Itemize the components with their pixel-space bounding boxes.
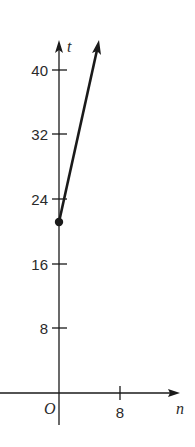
- t-axis-label: t: [67, 38, 72, 55]
- y-tick-label-32: 32: [31, 126, 48, 143]
- chart-canvas: 40 32 24 16 8 8 O t n: [0, 0, 195, 447]
- data-line: [59, 50, 97, 222]
- y-tick-label-40: 40: [31, 62, 48, 79]
- y-tick-label-8: 8: [40, 320, 48, 337]
- y-tick-label-24: 24: [31, 191, 48, 208]
- origin-label: O: [44, 400, 56, 417]
- n-axis-label: n: [176, 400, 184, 417]
- x-tick-label-8: 8: [116, 404, 124, 421]
- start-point-marker: [55, 218, 63, 226]
- y-tick-label-16: 16: [31, 256, 48, 273]
